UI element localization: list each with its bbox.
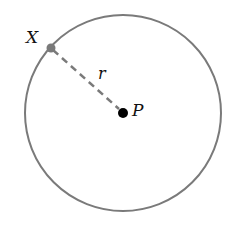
radius-line <box>53 50 119 109</box>
label-p: P <box>132 102 143 119</box>
label-r: r <box>98 66 106 82</box>
point-x-dot <box>47 44 56 53</box>
label-x: X <box>26 29 38 46</box>
circle-diagram: X r P <box>0 0 242 226</box>
point-p-dot <box>118 108 128 118</box>
